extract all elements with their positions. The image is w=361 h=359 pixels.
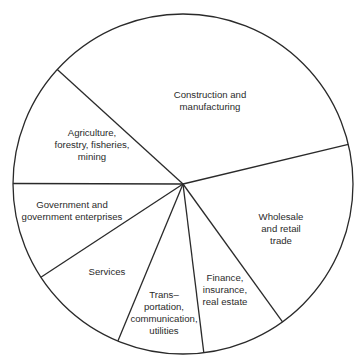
label-transportation: Trans– portation, communication, utiliti… <box>130 289 197 337</box>
label-government: Government and government enterprises <box>22 199 123 223</box>
slice-divider <box>41 184 183 277</box>
label-wholesale: Wholesale and retail trade <box>259 211 304 247</box>
label-finance: Finance, insurance, real estate <box>203 272 248 308</box>
slice-divider <box>183 144 348 184</box>
label-construction: Construction and manufacturing <box>174 89 247 113</box>
pie-chart: Construction and manufacturing Agricultu… <box>0 0 361 359</box>
slice-divider <box>13 184 183 185</box>
label-services: Services <box>89 266 126 278</box>
label-agriculture: Agriculture, forestry, fisheries, mining <box>55 127 130 163</box>
